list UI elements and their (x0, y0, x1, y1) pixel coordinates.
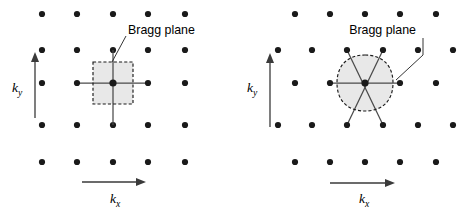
ky-axis-arrowhead (31, 52, 39, 62)
lattice-dot (182, 122, 188, 128)
lattice-origin-dot (361, 79, 368, 86)
lattice-dot (275, 47, 281, 53)
lattice-dot (182, 47, 188, 53)
lattice-dot (39, 122, 45, 128)
ky-axis-label: ky (247, 80, 258, 98)
lattice-dot (39, 159, 45, 165)
lattice-dot (74, 47, 80, 53)
kx-axis-label-subscript: x (364, 198, 370, 209)
kx-axis-arrowhead (385, 179, 395, 187)
lattice-dot (362, 159, 368, 165)
panel-square-lattice: Bragg plane ky kx (0, 0, 237, 209)
lattice-dot (182, 80, 188, 86)
lattice-dot (145, 122, 151, 128)
lattice-dot (110, 159, 116, 165)
lattice-dot (380, 47, 386, 53)
lattice-dot (380, 122, 386, 128)
lattice-dot (110, 11, 116, 17)
lattice-dot (344, 122, 350, 128)
kx-axis-label: kx (110, 191, 121, 209)
lattice-origin-dot (109, 79, 116, 86)
lattice-dot (39, 11, 45, 17)
lattice-dot (74, 159, 80, 165)
lattice-dot (362, 11, 368, 17)
lattice-dot (344, 47, 350, 53)
lattice-dot (397, 80, 403, 86)
lattice-dot (327, 80, 333, 86)
lattice-dot (74, 80, 80, 86)
lattice-dot (415, 122, 421, 128)
lattice-dot (397, 159, 403, 165)
lattice-dot (145, 11, 151, 17)
lattice-dot (433, 159, 439, 165)
lattice-dot (450, 47, 456, 53)
ky-axis-arrowhead (266, 53, 274, 63)
bragg-plane-leader-line (396, 38, 423, 80)
lattice-dot (292, 159, 298, 165)
lattice-dot (397, 11, 403, 17)
ky-axis-label-subscript: y (252, 87, 258, 98)
bragg-plane-label: Bragg plane (128, 23, 195, 37)
lattice-dot (145, 159, 151, 165)
lattice-dot (309, 122, 315, 128)
lattice-dot (433, 80, 439, 86)
bragg-plane-figure: Bragg plane ky kx (0, 0, 475, 209)
lattice-dot (74, 122, 80, 128)
lattice-dot (292, 80, 298, 86)
lattice-dot (74, 11, 80, 17)
lattice-dot (450, 122, 456, 128)
lattice-dot (327, 11, 333, 17)
lattice-dot (292, 11, 298, 17)
lattice-dot (415, 47, 421, 53)
lattice-dot (275, 122, 281, 128)
lattice-dot (327, 159, 333, 165)
lattice-dot (39, 80, 45, 86)
ky-axis-label-subscript: y (17, 87, 23, 98)
kx-axis-arrowhead (136, 178, 146, 186)
kx-axis-label-subscript: x (115, 198, 121, 209)
bragg-plane-label: Bragg plane (349, 23, 416, 37)
panel-triangular-lattice: Bragg plane ky kx (237, 0, 475, 209)
lattice-dot (182, 11, 188, 17)
lattice-dot (309, 47, 315, 53)
kx-axis-label: kx (359, 191, 370, 209)
lattice-dot (182, 159, 188, 165)
lattice-dot (145, 47, 151, 53)
lattice-dot (39, 47, 45, 53)
lattice-dot (433, 11, 439, 17)
lattice-dot (145, 80, 151, 86)
ky-axis-label: ky (12, 80, 23, 98)
